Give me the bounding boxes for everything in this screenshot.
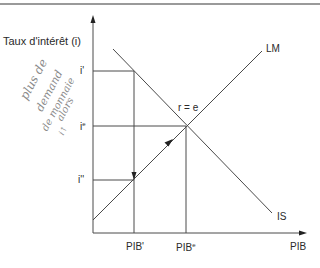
- x-axis-label: PIB: [290, 242, 306, 252]
- lm-direction-arrow-icon: [165, 139, 174, 147]
- y-axis-arrow-icon: [91, 15, 96, 23]
- i-e-label: ie: [80, 121, 86, 132]
- i-double-prime-label: i'': [78, 175, 84, 185]
- is-curve-label: IS: [277, 212, 286, 222]
- lm-curve: [93, 51, 262, 220]
- down-arrow-icon: [132, 172, 137, 180]
- pib-e-label: PIBe: [176, 242, 195, 253]
- lm-curve-label: LM: [266, 44, 280, 54]
- pib-prime-label: PIB': [126, 242, 144, 252]
- i-prime-label: i': [80, 66, 84, 76]
- y-axis-label: Taux d'intérêt (i): [3, 36, 81, 47]
- equilibrium-label: r = e: [178, 103, 198, 113]
- x-axis-arrow-icon: [299, 231, 307, 236]
- is-curve: [113, 49, 272, 213]
